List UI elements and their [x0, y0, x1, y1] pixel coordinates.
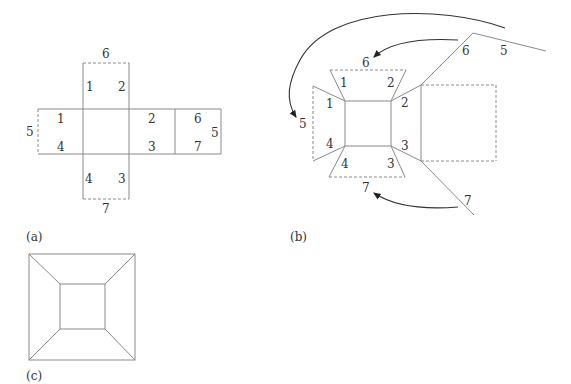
figure-c-frustum — [29, 254, 135, 360]
label-a-right-2: 2 — [148, 112, 156, 126]
caption-c: (c) — [26, 369, 42, 383]
label-a-left-4: 4 — [57, 140, 65, 154]
label-a-left-1: 1 — [57, 112, 65, 126]
label-a-right-3: 3 — [148, 140, 156, 154]
label-b-target-5: 5 — [299, 117, 307, 131]
label-b-target-7: 7 — [362, 181, 370, 195]
label-b-right-3: 3 — [401, 139, 409, 153]
caption-b: (b) — [290, 230, 307, 244]
label-a-bottom-edge: 7 — [102, 202, 110, 216]
label-b-bottrap-3: 3 — [387, 157, 395, 171]
label-b-toptrap-2: 2 — [387, 76, 395, 90]
label-b-lefttrap-1: 1 — [326, 97, 334, 111]
label-a-bottom-3: 3 — [118, 172, 126, 186]
label-b-toptrap-1: 1 — [340, 76, 348, 90]
arrow-to-6 — [374, 40, 458, 57]
label-a-far-7: 7 — [194, 140, 202, 154]
label-b-right-2: 2 — [401, 96, 409, 110]
figure-b-unfold — [313, 33, 546, 215]
label-a-top-1: 1 — [86, 80, 94, 94]
label-b-target-6: 6 — [362, 56, 370, 70]
diagram-canvas: 6 1 2 1 4 5 2 3 6 7 5 4 3 7 (a) — [0, 0, 571, 384]
caption-a: (a) — [26, 230, 43, 244]
label-a-top-2: 2 — [118, 80, 126, 94]
label-b-peak-5: 5 — [500, 44, 508, 58]
label-b-peak-6: 6 — [462, 44, 470, 58]
label-a-far-edge: 5 — [211, 126, 219, 140]
label-a-far-6: 6 — [194, 112, 202, 126]
label-a-top-edge: 6 — [102, 47, 110, 61]
label-a-left-edge: 5 — [26, 125, 34, 139]
arrow-to-7 — [374, 193, 458, 208]
figure-a-net — [38, 63, 221, 199]
label-b-bottrap-4: 4 — [341, 157, 349, 171]
arrow-to-5 — [289, 13, 505, 117]
label-a-bottom-4: 4 — [85, 172, 93, 186]
label-b-lefttrap-4: 4 — [326, 137, 334, 151]
label-b-diag-7: 7 — [464, 194, 472, 208]
